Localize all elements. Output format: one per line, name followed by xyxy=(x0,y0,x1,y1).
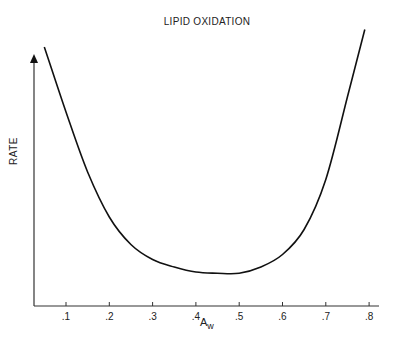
x-axis-ticks: .1.2.3.4.5.6.7.8 xyxy=(62,302,374,322)
x-tick-label: .8 xyxy=(365,311,374,322)
y-axis-arrow-icon xyxy=(30,54,38,63)
x-tick-label: .7 xyxy=(322,311,331,322)
x-tick-label: .3 xyxy=(148,311,157,322)
x-tick-label: .1 xyxy=(62,311,71,322)
x-tick-label: .5 xyxy=(235,311,244,322)
chart-plot: .1.2.3.4.5.6.7.8 xyxy=(0,0,394,351)
x-tick-label: .6 xyxy=(278,311,287,322)
data-line xyxy=(44,30,365,274)
x-tick-label: .4 xyxy=(192,311,201,322)
x-tick-label: .2 xyxy=(105,311,114,322)
